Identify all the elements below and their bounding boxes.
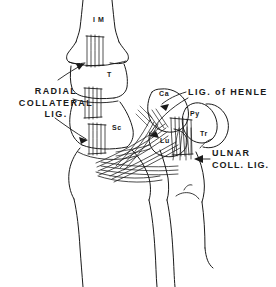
label-ulnar-line2: COLL. LIG. xyxy=(212,160,269,170)
label-bone-lunate: Lu xyxy=(160,137,170,146)
label-lig-of-henle: LIG. of HENLE xyxy=(188,87,268,99)
arrowhead-ulnar xyxy=(194,155,203,163)
arrowhead-radial-lower xyxy=(79,137,88,144)
leader-radial-collateral-lower xyxy=(55,118,86,139)
label-ulnar-line1: ULNAR xyxy=(212,148,251,158)
label-ulnar-coll-lig: ULNARCOLL. LIG. xyxy=(212,148,269,171)
oblique-ligament-band-4 xyxy=(116,120,158,170)
radial-collateral-upper-fibers xyxy=(87,35,103,67)
label-bone-pisiform: Py xyxy=(190,110,200,119)
label-bone-scaphoid: Sc xyxy=(112,124,122,133)
radial-edge-hatching xyxy=(136,106,152,126)
label-bone-triquetrum: Tr xyxy=(200,130,208,139)
label-bone-first-metacarpal: I M xyxy=(93,16,105,25)
arrowhead-radial-upper xyxy=(76,64,84,70)
label-radial-collateral-lig: RADIALCOLLATERALLIG. xyxy=(8,86,104,121)
arrowhead-henle-upper xyxy=(160,104,169,111)
radial-collateral-lower-fibers xyxy=(89,123,105,155)
wrist-ligament-drawing xyxy=(0,0,276,287)
label-radial-line2: COLLATERAL xyxy=(19,98,93,108)
henle-ligament-fibers xyxy=(148,109,168,130)
label-bone-capitate: Ca xyxy=(159,90,169,99)
label-radial-line3: LIG. xyxy=(44,109,67,119)
anatomical-figure: RADIALCOLLATERALLIG. LIG. of HENLE ULNAR… xyxy=(0,0,276,287)
label-radial-line1: RADIAL xyxy=(35,86,77,96)
label-bone-trapezium: T xyxy=(107,71,112,80)
first-metacarpal-outline xyxy=(67,0,129,64)
